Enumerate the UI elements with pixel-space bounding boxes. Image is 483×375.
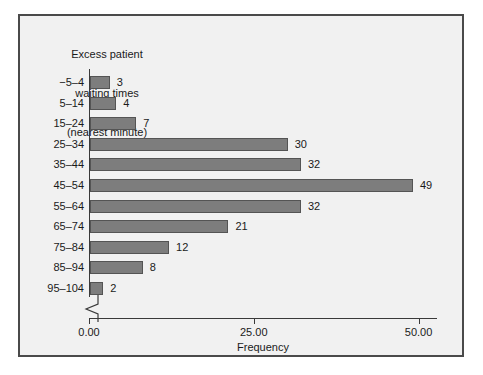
bar-value-label: 21 <box>235 216 247 237</box>
bar-value-label: 8 <box>150 257 156 278</box>
bar-row: 45–5449 <box>20 175 440 196</box>
bar-row: 25–3430 <box>20 134 440 155</box>
bar[interactable] <box>90 138 288 151</box>
x-tick-label: 0.00 <box>59 326 119 338</box>
bar[interactable] <box>90 117 136 130</box>
x-tick-mark <box>254 319 255 324</box>
bar-row: 85–948 <box>20 257 440 278</box>
bar[interactable] <box>90 179 413 192</box>
bar-row: 65–7421 <box>20 216 440 237</box>
bar-row: 95–1042 <box>20 278 440 299</box>
x-tick-mark <box>89 319 90 324</box>
bar-category-label: 75–84 <box>20 237 84 258</box>
x-tick-label: 25.00 <box>224 326 284 338</box>
bar-value-label: 3 <box>117 72 123 93</box>
bar-row: 75–8412 <box>20 237 440 258</box>
bar-category-label: 85–94 <box>20 257 84 278</box>
x-tick-label: 50.00 <box>389 326 449 338</box>
bar-category-label: −5–4 <box>20 72 84 93</box>
bar-row: 15–247 <box>20 113 440 134</box>
bar[interactable] <box>90 261 143 274</box>
figure: Excess patient waiting times (nearest mi… <box>0 0 483 375</box>
bar-category-label: 15–24 <box>20 113 84 134</box>
bar-value-label: 7 <box>143 113 149 134</box>
bar-category-label: 95–104 <box>20 278 84 299</box>
bar[interactable] <box>90 97 116 110</box>
bar-value-label: 32 <box>308 154 320 175</box>
bar-row: −5–43 <box>20 72 440 93</box>
bar-value-label: 49 <box>420 175 432 196</box>
chart-frame: Excess patient waiting times (nearest mi… <box>18 14 464 357</box>
bar-value-label: 12 <box>176 237 188 258</box>
bar-value-label: 32 <box>308 196 320 217</box>
bar-row: 35–4432 <box>20 154 440 175</box>
bar-row: 5–144 <box>20 93 440 114</box>
x-tick-mark <box>419 319 420 324</box>
x-axis-title: Frequency <box>89 341 437 353</box>
bar-value-label: 2 <box>110 278 116 299</box>
bar-row: 55–6432 <box>20 196 440 217</box>
bar[interactable] <box>90 200 301 213</box>
bar[interactable] <box>90 158 301 171</box>
bar-category-label: 55–64 <box>20 196 84 217</box>
bar-category-label: 5–14 <box>20 93 84 114</box>
x-axis-line <box>89 318 437 319</box>
bar-category-label: 45–54 <box>20 175 84 196</box>
bar-value-label: 4 <box>123 93 129 114</box>
plot-area: −5–435–14415–24725–343035–443245–544955–… <box>20 16 462 355</box>
bar[interactable] <box>90 282 103 295</box>
bar[interactable] <box>90 76 110 89</box>
bar-category-label: 65–74 <box>20 216 84 237</box>
bar[interactable] <box>90 241 169 254</box>
bar[interactable] <box>90 220 228 233</box>
bar-value-label: 30 <box>295 134 307 155</box>
bar-category-label: 25–34 <box>20 134 84 155</box>
bar-category-label: 35–44 <box>20 154 84 175</box>
